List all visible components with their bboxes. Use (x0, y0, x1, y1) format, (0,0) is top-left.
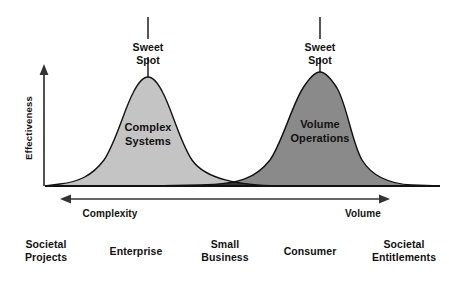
complexity-volume-range-arrow (60, 194, 390, 203)
curves-svg (0, 0, 449, 282)
y-axis-arrow (40, 64, 49, 186)
diagram-canvas: Effectiveness Sweet Spot Sweet Spot Comp… (0, 0, 449, 282)
